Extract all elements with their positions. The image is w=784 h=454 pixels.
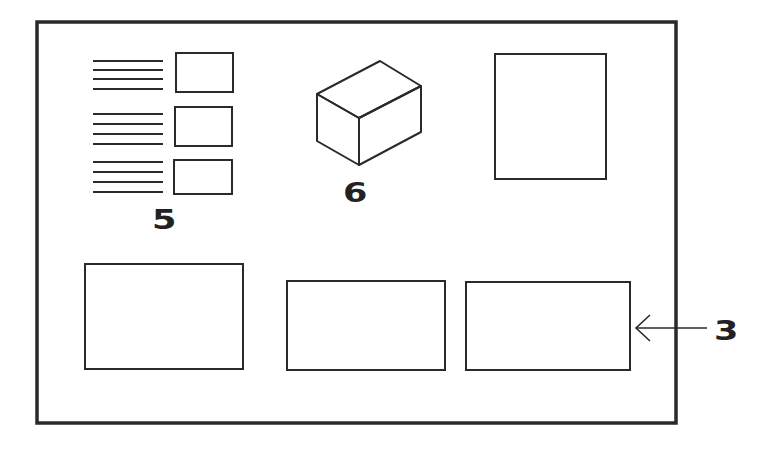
thumbnail-box — [176, 53, 233, 92]
box-middle — [287, 281, 445, 370]
list-row — [93, 107, 232, 146]
diagram-canvas — [0, 0, 784, 454]
cube-left-face — [317, 94, 359, 165]
outer-frame — [37, 22, 676, 423]
label-3: 3 — [714, 318, 738, 344]
cube-icon — [317, 61, 421, 165]
box-right — [466, 282, 630, 370]
tall-box — [495, 54, 606, 179]
list-row — [93, 53, 233, 92]
thumbnail-box — [174, 160, 232, 194]
arrow-3 — [636, 315, 707, 341]
label-5: 5 — [152, 207, 176, 233]
list-row — [93, 160, 232, 194]
cube-right-face — [359, 86, 421, 165]
cube-top-face — [317, 61, 421, 118]
box-left — [85, 264, 243, 369]
label-6: 6 — [343, 180, 367, 206]
thumbnail-box — [175, 107, 232, 146]
group-5-list-thumbnails — [93, 53, 233, 194]
bottom-boxes — [85, 264, 630, 370]
